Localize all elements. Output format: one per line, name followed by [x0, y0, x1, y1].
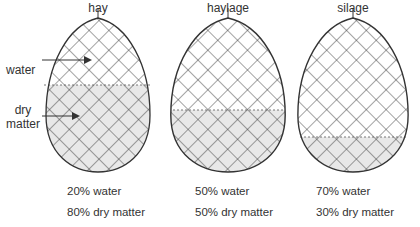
silage-water-caption: 70% water	[316, 185, 370, 197]
haylage-water-caption: 50% water	[195, 185, 249, 197]
haylage-dry-caption: 50% dry matter	[195, 206, 273, 218]
hay-water-caption: 20% water	[67, 185, 121, 197]
dry-matter-label-line2: matter	[4, 117, 42, 131]
hay-title: hay	[58, 1, 138, 15]
water-label: water	[6, 63, 35, 77]
dry-matter-label-line1: dry	[4, 103, 42, 117]
haylage-bale	[165, 8, 295, 190]
silage-title: silage	[313, 1, 393, 15]
hay-dry-caption: 80% dry matter	[67, 206, 145, 218]
haylage-title: haylage	[188, 1, 268, 15]
dry-matter-label: dry matter	[4, 103, 42, 131]
silage-bale	[290, 8, 415, 197]
silage-dry-caption: 30% dry matter	[316, 206, 394, 218]
hay-bale	[40, 8, 160, 190]
